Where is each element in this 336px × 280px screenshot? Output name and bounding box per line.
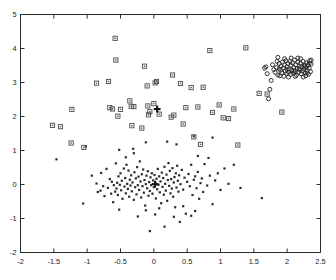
y-tick-label: 5 [12,10,16,19]
y-tick-label: 0 [12,180,16,189]
y-tick-label: 3 [12,78,16,87]
scatter-plot-figure: -2-1.5-1-0.500.511.522.5 -2-1012345 [0,0,336,280]
x-tick-label: 1.5 [249,257,259,266]
x-tick-label: -2 [17,257,24,266]
x-tick-label: 1 [218,257,222,266]
x-tick-label: 2 [285,257,289,266]
axis-ticks [21,15,321,253]
x-tick-label: -0.5 [114,257,127,266]
y-tick-labels: -2-1012345 [10,10,17,257]
x-tick-label: 0.5 [182,257,192,266]
y-tick-label: 2 [12,112,16,121]
y-tick-label: 4 [12,44,16,53]
x-tick-label: 0 [152,257,156,266]
y-tick-label: 1 [12,146,16,155]
axis-frame [21,15,321,253]
y-tick-label: -2 [10,248,17,257]
series-cluster-2-squares [50,36,284,149]
series-cluster-3-circles [263,55,314,100]
data-points [50,36,313,232]
x-tick-label: 2.5 [315,257,325,266]
plot-canvas: -2-1.5-1-0.500.511.522.5 -2-1012345 [0,0,336,280]
x-tick-labels: -2-1.5-1-0.500.511.522.5 [17,257,325,266]
series-cluster-1-dots [55,135,263,232]
y-tick-label: -1 [10,214,17,223]
x-tick-label: -1 [84,257,91,266]
x-tick-label: -1.5 [47,257,60,266]
